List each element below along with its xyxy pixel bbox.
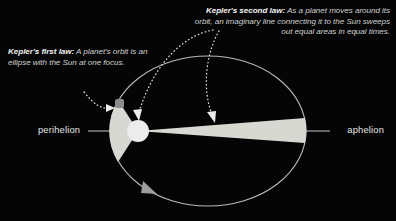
second-law-leader-arrow-aphelion-icon	[207, 111, 216, 123]
label-aphelion: aphelion	[347, 124, 384, 135]
callout-first-law: Kepler's first law: A planet's orbit is …	[8, 47, 156, 68]
second-law-title: Kepler's second law:	[206, 6, 285, 15]
planet-body	[115, 99, 124, 108]
sun-body	[127, 120, 149, 142]
first-law-title: Kepler's first law:	[8, 47, 74, 56]
orbit-direction-arrow-icon	[141, 181, 157, 194]
label-perihelion: perihelion	[38, 124, 80, 135]
aphelion-sweep-sector	[138, 118, 306, 143]
kepler-laws-diagram: Kepler's first law: A planet's orbit is …	[0, 0, 396, 221]
callout-second-law: Kepler's second law: As a planet moves a…	[194, 6, 390, 38]
second-law-leader-line-aphelion	[206, 31, 219, 117]
second-law-leader-arrow-perihelion-icon	[133, 109, 142, 121]
second-law-leader-line-perihelion	[138, 30, 213, 115]
